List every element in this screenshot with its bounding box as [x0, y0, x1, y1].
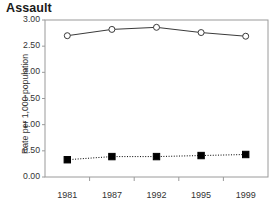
x-axis-ticks [90, 177, 224, 181]
data-point-marker [64, 157, 70, 163]
data-point-marker [243, 151, 249, 157]
data-point-marker [64, 33, 70, 39]
data-point-marker [154, 24, 160, 30]
data-point-marker [153, 153, 159, 159]
plot-area [0, 0, 276, 212]
data-point-marker [198, 30, 204, 36]
data-point-marker [109, 26, 115, 32]
data-point-marker [109, 153, 115, 159]
data-point-marker [198, 152, 204, 158]
data-series-group [64, 24, 249, 163]
data-point-marker [243, 33, 249, 39]
chart-figure: Assault Rate per 1,000 population 0.000.… [0, 0, 276, 212]
